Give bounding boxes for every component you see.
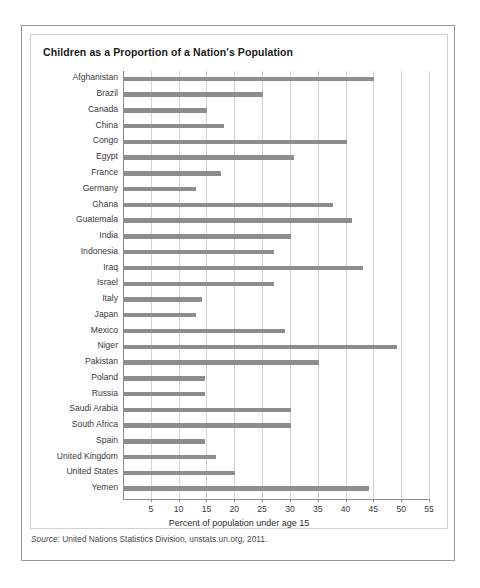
bar-row: Japan [123,307,429,323]
category-label-congo: Congo [93,135,118,146]
category-label-japan: Japan [95,309,118,320]
tick-mark-10 [179,499,180,502]
chart-title: Children as a Proportion of a Nation's P… [43,46,293,58]
category-label-afghanistan: Afghanistan [73,72,118,83]
tick-label-45: 45 [358,504,388,514]
category-label-poland: Poland [91,372,118,383]
category-label-egypt: Egypt [96,151,118,162]
tick-label-35: 35 [303,504,333,514]
bar-spain [124,439,205,443]
tick-label-30: 30 [275,504,305,514]
bar-israel [124,282,274,286]
bar-saudi-arabia [124,408,291,412]
bar-row: Yemen [123,481,429,497]
x-axis-line [123,499,429,500]
tick-mark-15 [206,499,207,502]
bar-brazil [124,92,263,96]
x-axis-label: Percent of population under age 15 [31,518,447,528]
bar-united-states [124,471,235,475]
bar-row: Congo [123,134,429,150]
bar-row: Poland [123,371,429,387]
category-label-italy: Italy [102,293,118,304]
chart-card: Children as a Proportion of a Nation's P… [30,34,448,529]
tick-mark-40 [346,499,347,502]
bar-china [124,124,224,128]
bar-row: Pakistan [123,355,429,371]
category-label-united-kingdom: United Kingdom [57,451,118,462]
bar-afghanistan [124,77,374,81]
bar-iraq [124,266,363,270]
tick-label-50: 50 [386,504,416,514]
bar-row: Egypt [123,150,429,166]
bar-row: Mexico [123,323,429,339]
tick-label-15: 15 [191,504,221,514]
category-label-china: China [96,120,118,131]
category-label-india: India [99,230,118,241]
category-label-russia: Russia [92,388,118,399]
category-label-mexico: Mexico [91,325,118,336]
bar-italy [124,297,202,301]
bar-japan [124,313,196,317]
bar-row: Russia [123,386,429,402]
bar-row: France [123,166,429,182]
bar-guatemala [124,218,352,222]
tick-mark-25 [262,499,263,502]
bar-germany [124,187,196,191]
bar-row: Canada [123,103,429,119]
tick-mark-50 [401,499,402,502]
bar-series: AfghanistanBrazilCanadaChinaCongoEgyptFr… [123,71,429,499]
bar-pakistan [124,360,319,364]
category-label-saudi-arabia: Saudi Arabia [69,403,118,414]
bar-row: Afghanistan [123,71,429,87]
bar-poland [124,376,205,380]
category-label-indonesia: Indonesia [81,246,118,257]
bar-row: Saudi Arabia [123,402,429,418]
figure-outer-frame: Children as a Proportion of a Nation's P… [21,25,455,561]
tick-label-10: 10 [164,504,194,514]
bar-congo [124,140,347,144]
bar-yemen [124,486,369,490]
bar-niger [124,345,397,349]
category-label-ghana: Ghana [92,199,118,210]
bar-row: United Kingdom [123,449,429,465]
category-label-canada: Canada [88,104,118,115]
bar-row: South Africa [123,418,429,434]
category-label-germany: Germany [83,183,118,194]
tick-label-25: 25 [247,504,277,514]
category-label-yemen: Yemen [92,482,118,493]
category-label-niger: Niger [97,340,118,351]
tick-label-5: 5 [136,504,166,514]
bar-row: Indonesia [123,244,429,260]
category-label-israel: Israel [97,277,118,288]
tick-mark-20 [234,499,235,502]
tick-mark-45 [373,499,374,502]
bar-india [124,234,291,238]
tick-mark-35 [318,499,319,502]
bar-row: Ghana [123,197,429,213]
tick-label-40: 40 [331,504,361,514]
category-label-spain: Spain [96,435,118,446]
bar-canada [124,108,207,112]
bar-row: Guatemala [123,213,429,229]
bar-ghana [124,203,333,207]
tick-mark-30 [290,499,291,502]
bar-row: Brazil [123,87,429,103]
bar-row: United States [123,465,429,481]
bar-row: Germany [123,181,429,197]
tick-label-20: 20 [219,504,249,514]
bar-egypt [124,155,294,159]
gridline-55 [429,71,430,499]
bar-row: Iraq [123,260,429,276]
category-label-france: France [91,167,118,178]
category-label-iraq: Iraq [103,262,118,273]
bar-row: Niger [123,339,429,355]
plot-area: AfghanistanBrazilCanadaChinaCongoEgyptFr… [123,71,429,499]
source-text: United Nations Statistics Division, unst… [62,534,267,544]
bar-row: Israel [123,276,429,292]
bar-mexico [124,329,285,333]
category-label-guatemala: Guatemala [76,214,118,225]
source-note: Source: United Nations Statistics Divisi… [31,534,267,544]
bar-france [124,171,221,175]
category-label-pakistan: Pakistan [85,356,118,367]
bar-russia [124,392,205,396]
